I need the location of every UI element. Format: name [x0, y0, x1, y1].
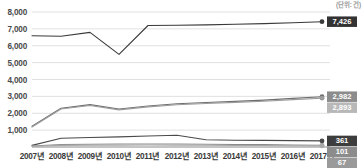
value-badge-label-series-low-mid: 101 [336, 147, 349, 156]
x-axis-tick-label: 2010년 [107, 151, 132, 161]
line-chart: (단위: 건) 1,0002,0003,0004,0005,0006,0007,… [0, 0, 363, 168]
x-axis-tick-label: 2007년 [20, 151, 45, 161]
series-endpoint-series-low-upper [320, 139, 325, 144]
y-axis-tick-label: 2,000 [8, 109, 28, 118]
y-axis-tick-label: 5,000 [8, 59, 28, 68]
y-axis-tick-label: 7,000 [8, 25, 28, 34]
value-badge-label-series-low-upper: 361 [336, 136, 349, 145]
series-line-series-low-bottom [32, 145, 322, 146]
chart-canvas: 1,0002,0003,0004,0005,0006,0007,0008,000… [0, 0, 363, 168]
series-endpoint-series-top [320, 19, 325, 24]
series-endpoint-series-low-bottom [320, 143, 325, 148]
value-badge-label-series-mid-lower: 2,893 [332, 103, 351, 112]
y-axis-tick-label: 8,000 [8, 8, 28, 17]
x-axis-tick-label: 2008년 [49, 151, 74, 161]
series-line-series-top [32, 22, 322, 55]
series-endpoint-series-mid-lower [320, 96, 325, 101]
y-axis-tick-label: 3,000 [8, 92, 28, 101]
x-axis-tick-label: 2013년 [194, 151, 219, 161]
y-axis-tick-label: 1,000 [8, 126, 28, 135]
x-axis-tick-label: 2014년 [223, 151, 248, 161]
y-axis-tick-label: 4,000 [8, 76, 28, 85]
x-axis-tick-label: 2015년 [252, 151, 277, 161]
x-axis-tick-label: 2011년 [136, 151, 160, 161]
series-line-series-mid-lower [32, 98, 322, 127]
x-axis-tick-label: 2009년 [78, 151, 103, 161]
series-line-series-mid-upper [32, 97, 322, 127]
value-badge-label-series-low-bottom: 67 [338, 158, 346, 167]
y-axis-tick-label: 6,000 [8, 42, 28, 51]
value-badge-label-series-mid-upper: 2,982 [332, 92, 351, 101]
x-axis-tick-label: 2012년 [165, 151, 190, 161]
value-badge-label-series-top: 7,426 [332, 17, 351, 26]
x-axis-tick-label: 2016년 [281, 151, 306, 161]
